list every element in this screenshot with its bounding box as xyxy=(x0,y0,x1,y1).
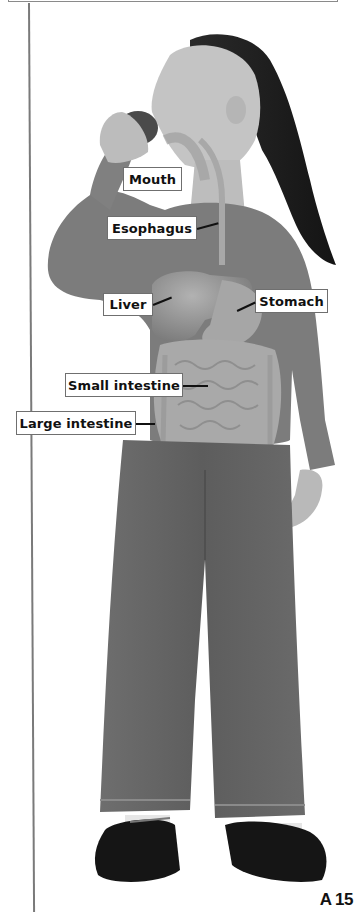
ear xyxy=(226,96,246,124)
leader-small-intestine xyxy=(183,385,208,387)
left-shoe xyxy=(95,820,180,882)
label-liver: Liver xyxy=(103,293,153,316)
label-large-intestine: Large intestine xyxy=(16,411,136,435)
label-small-intestine: Small intestine xyxy=(65,373,183,397)
label-stomach: Stomach xyxy=(255,289,328,313)
leader-large-intestine xyxy=(136,423,155,425)
label-esophagus: Esophagus xyxy=(107,216,197,240)
label-mouth: Mouth xyxy=(123,167,182,191)
girl-illustration xyxy=(0,0,363,912)
page-number: A 15 xyxy=(320,890,353,910)
right-shoe xyxy=(225,821,326,881)
intestines xyxy=(154,340,281,459)
jeans xyxy=(100,440,305,818)
